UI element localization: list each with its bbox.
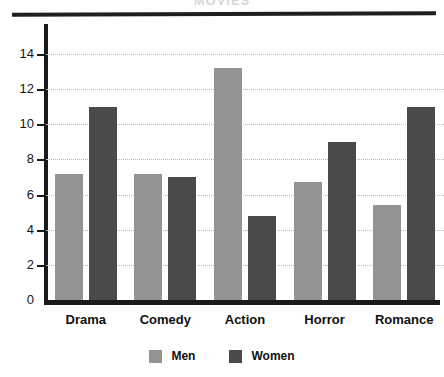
legend-item-men: Men [149, 349, 195, 363]
y-tick-mark-6 [37, 195, 45, 197]
y-tick-label-4: 4 [8, 222, 34, 237]
y-tick-label-0: 0 [8, 292, 34, 307]
y-tick-label-6: 6 [8, 187, 34, 202]
x-category-label-action: Action [205, 312, 285, 327]
gridline-14 [46, 54, 444, 55]
bar-chart: 14121086420DramaComedyActionHorrorRomanc… [0, 24, 444, 314]
bar-horror-women [328, 142, 356, 300]
y-tick-label-2: 2 [8, 257, 34, 272]
y-tick-mark-10 [37, 124, 45, 126]
y-tick-mark-14 [37, 54, 45, 56]
bar-action-women [248, 216, 276, 300]
x-axis-spine [44, 300, 440, 305]
y-tick-mark-12 [37, 89, 45, 91]
bar-drama-men [55, 174, 83, 301]
chart-legend: Men Women [0, 349, 444, 363]
figure-title: MOVIES [0, 0, 444, 5]
x-category-label-drama: Drama [46, 312, 126, 327]
bar-romance-men [373, 205, 401, 300]
legend-label-men: Men [171, 349, 195, 363]
title-divider-rule [12, 11, 436, 16]
y-tick-mark-2 [37, 265, 45, 267]
gridline-12 [46, 89, 444, 90]
y-tick-label-12: 12 [8, 81, 34, 96]
y-tick-mark-4 [37, 230, 45, 232]
bar-comedy-men [134, 174, 162, 301]
legend-label-women: Women [251, 349, 294, 363]
y-tick-label-8: 8 [8, 151, 34, 166]
plot-region [46, 29, 444, 299]
bar-drama-women [89, 107, 117, 300]
x-category-label-comedy: Comedy [126, 312, 206, 327]
bar-horror-men [294, 182, 322, 300]
bar-romance-women [407, 107, 435, 300]
x-category-label-romance: Romance [364, 312, 444, 327]
y-tick-label-10: 10 [8, 116, 34, 131]
bar-action-men [214, 68, 242, 300]
x-category-label-horror: Horror [285, 312, 365, 327]
y-tick-label-14: 14 [8, 46, 34, 61]
legend-item-women: Women [229, 349, 294, 363]
y-tick-mark-8 [37, 159, 45, 161]
legend-swatch-men [149, 350, 162, 363]
legend-swatch-women [229, 350, 242, 363]
bar-comedy-women [168, 177, 196, 300]
